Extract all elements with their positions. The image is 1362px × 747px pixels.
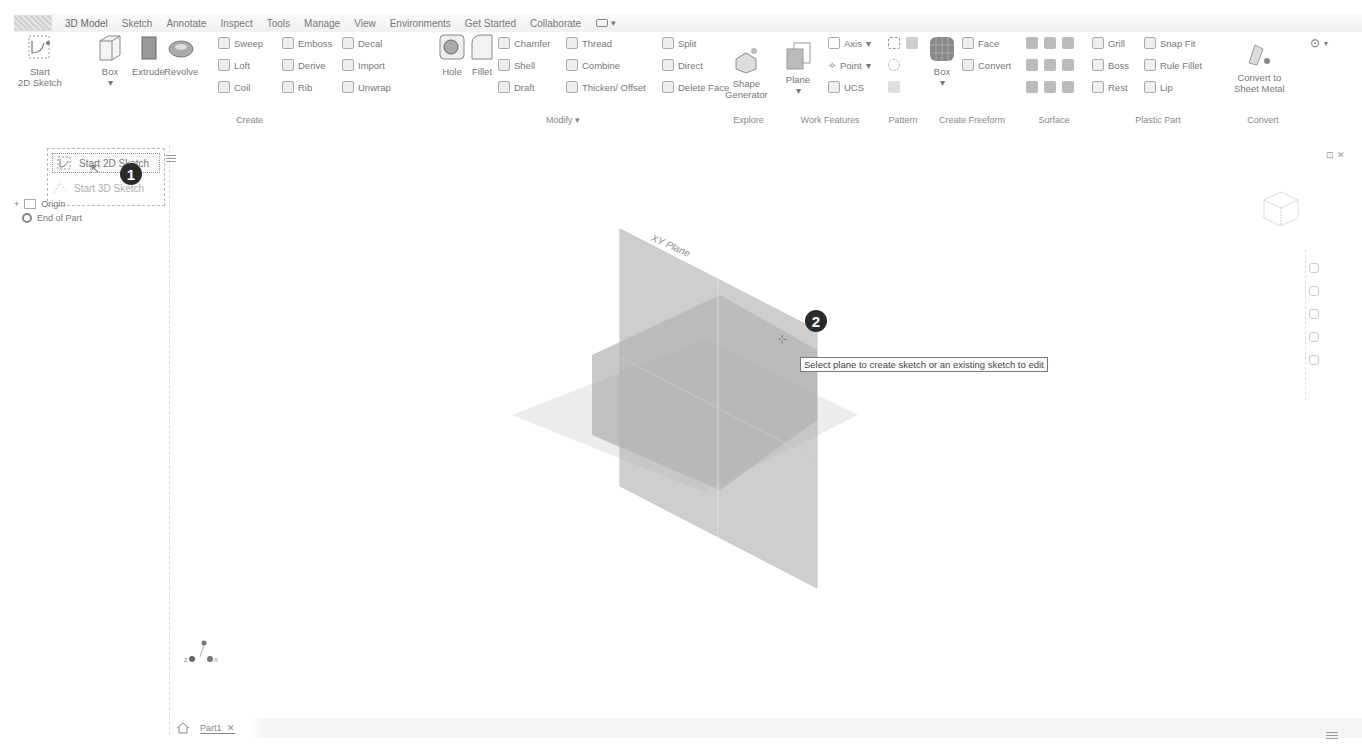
document-tab-bar: Part1 ✕ [172, 718, 1362, 738]
orbit-icon[interactable] [1309, 332, 1319, 342]
pan-icon[interactable] [1309, 286, 1319, 296]
viewport-close-controls[interactable]: ⊡ ✕ [1326, 150, 1345, 160]
document-menu-icon[interactable] [1326, 730, 1338, 741]
zoom-icon[interactable] [1309, 309, 1319, 319]
coordinate-triad: Z X [180, 635, 220, 667]
document-tab-part1[interactable]: Part1 ✕ [200, 723, 235, 734]
look-at-icon[interactable] [1309, 355, 1319, 365]
tooltip: Select plane to create sketch or an exis… [800, 357, 1048, 372]
svg-text:X: X [214, 657, 218, 663]
callout-badge-2: 2 [805, 310, 827, 332]
home-icon[interactable] [176, 722, 190, 734]
full-navigation-wheel-icon[interactable] [1309, 263, 1319, 273]
view-cube[interactable] [1260, 188, 1302, 230]
close-tab-icon[interactable]: ✕ [227, 723, 235, 733]
select-cursor-icon: ⊹ [777, 332, 787, 346]
svg-text:Z: Z [184, 657, 188, 663]
navigation-bar [1305, 250, 1321, 400]
